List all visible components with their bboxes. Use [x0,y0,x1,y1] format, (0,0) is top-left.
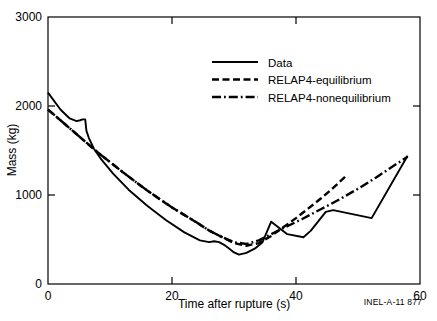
y-tick-label: 1000 [15,188,42,202]
legend-label: Data [268,57,293,69]
x-axis-ticks [172,277,296,284]
x-tick-label: 0 [45,289,52,303]
x-axis-title: Time after rupture (s) [178,297,290,311]
y-axis-title: Mass (kg) [5,124,19,177]
y-tick-label: 3000 [15,10,42,24]
figure-id-note: INEL-A-11 877 [364,297,422,307]
series-line [48,110,408,244]
legend-label: RELAP4-equilibrium [268,74,372,86]
series-layer [48,93,408,255]
y-axis-ticks-right [413,106,420,195]
series-line [48,93,408,255]
y-tick-labels: 0100020003000 [15,10,42,291]
chart-figure: 0100020003000 0204060 Time after rupture… [0,0,437,321]
y-tick-label: 0 [35,277,42,291]
plot-frame [48,17,420,284]
legend-label: RELAP4-nonequilibrium [268,92,391,104]
x-tick-label: 40 [289,289,303,303]
y-axis-ticks [48,106,55,195]
x-axis-ticks-top [172,17,296,24]
y-tick-label: 2000 [15,99,42,113]
chart-legend: DataRELAP4-equilibriumRELAP4-nonequilibr… [212,57,391,104]
mass-vs-time-chart: 0100020003000 0204060 Time after rupture… [0,0,437,321]
series-line [48,110,346,246]
